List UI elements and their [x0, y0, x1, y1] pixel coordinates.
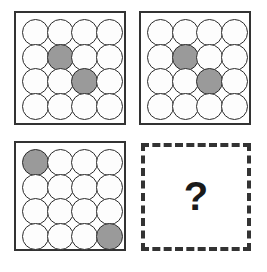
grid-cell [147, 44, 174, 71]
circle-grid-bottom-left [22, 149, 122, 249]
grid-cell [147, 19, 174, 46]
empty-circle [22, 223, 49, 250]
empty-circle [71, 149, 98, 176]
empty-circle [147, 44, 174, 71]
empty-circle [22, 19, 49, 46]
empty-circle [221, 44, 248, 71]
grid-cell [22, 93, 49, 120]
grid-cell [96, 93, 123, 120]
empty-circle [172, 68, 199, 95]
empty-circle [96, 149, 123, 176]
empty-circle [47, 174, 74, 201]
grid-cell [96, 68, 123, 95]
grid-cell [96, 174, 123, 201]
grid-cell [96, 44, 123, 71]
empty-circle [47, 19, 74, 46]
empty-circle [71, 174, 98, 201]
grid-cell [71, 68, 98, 95]
grid-cell [196, 19, 223, 46]
grid-cell [71, 149, 98, 176]
grid-cell [96, 149, 123, 176]
grid-cell [71, 19, 98, 46]
grid-cell [47, 223, 74, 250]
circle-grid-top-left [22, 19, 122, 119]
grid-cell [47, 19, 74, 46]
empty-circle [71, 223, 98, 250]
empty-circle [96, 174, 123, 201]
grid-cell [47, 68, 74, 95]
grid-cell [196, 93, 223, 120]
grid-cell [96, 19, 123, 46]
grid-cell [221, 68, 248, 95]
grid-cell [196, 44, 223, 71]
empty-circle [22, 93, 49, 120]
grid-cell [71, 174, 98, 201]
empty-circle [196, 44, 223, 71]
grid-cell [22, 68, 49, 95]
grid-cell [172, 44, 199, 71]
grid-cell [47, 93, 74, 120]
shaded-circle [47, 44, 74, 71]
empty-circle [47, 223, 74, 250]
empty-circle [71, 19, 98, 46]
empty-circle [147, 93, 174, 120]
grid-cell [47, 44, 74, 71]
empty-circle [147, 68, 174, 95]
grid-cell [221, 93, 248, 120]
shaded-circle [22, 149, 49, 176]
puzzle-container: ? [0, 0, 267, 272]
empty-circle [196, 93, 223, 120]
grid-cell [96, 223, 123, 250]
empty-circle [172, 93, 199, 120]
empty-circle [22, 198, 49, 225]
empty-circle [71, 93, 98, 120]
empty-circle [71, 44, 98, 71]
empty-circle [96, 198, 123, 225]
grid-cell [71, 93, 98, 120]
grid-cell [172, 68, 199, 95]
grid-cell [221, 19, 248, 46]
empty-circle [22, 44, 49, 71]
circle-grid-top-right [147, 19, 247, 119]
question-mark-label: ? [145, 147, 247, 247]
grid-cell [71, 198, 98, 225]
grid-cell [22, 198, 49, 225]
empty-circle [147, 19, 174, 46]
grid-cell [22, 223, 49, 250]
empty-circle [172, 19, 199, 46]
empty-circle [221, 19, 248, 46]
empty-circle [71, 198, 98, 225]
grid-cell [147, 93, 174, 120]
empty-circle [47, 149, 74, 176]
empty-circle [196, 19, 223, 46]
empty-circle [96, 68, 123, 95]
empty-circle [96, 93, 123, 120]
grid-cell [22, 19, 49, 46]
grid-cell [221, 44, 248, 71]
grid-cell [96, 198, 123, 225]
shaded-circle [196, 68, 223, 95]
puzzle-panel-bottom-left [14, 141, 126, 251]
empty-circle [22, 68, 49, 95]
empty-circle [221, 93, 248, 120]
empty-circle [47, 93, 74, 120]
puzzle-panel-answer-slot[interactable]: ? [141, 143, 251, 251]
empty-circle [96, 19, 123, 46]
empty-circle [96, 44, 123, 71]
grid-cell [47, 149, 74, 176]
empty-circle [221, 68, 248, 95]
grid-cell [47, 174, 74, 201]
shaded-circle [172, 44, 199, 71]
grid-cell [22, 149, 49, 176]
empty-circle [47, 198, 74, 225]
grid-cell [47, 198, 74, 225]
puzzle-panel-top-right [139, 11, 251, 125]
empty-circle [47, 68, 74, 95]
grid-cell [22, 44, 49, 71]
puzzle-panel-top-left [14, 11, 126, 125]
grid-cell [196, 68, 223, 95]
empty-circle [22, 174, 49, 201]
shaded-circle [96, 223, 123, 250]
grid-cell [71, 44, 98, 71]
grid-cell [172, 93, 199, 120]
